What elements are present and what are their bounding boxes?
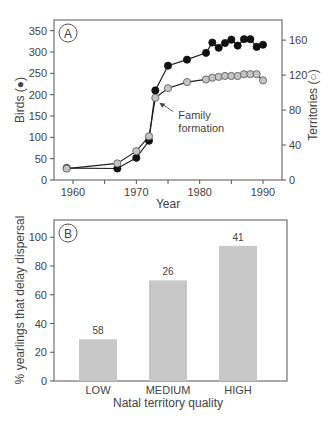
figure: 050100150200250300350 04080120160 196019… bbox=[0, 0, 334, 427]
panel-b-bar-chart: 020406080100 58LOW26MEDIUM41HIGH B Natal… bbox=[13, 216, 287, 410]
tick-label: 150 bbox=[29, 110, 47, 122]
tick-label: 40 bbox=[289, 139, 301, 151]
data-point bbox=[133, 148, 140, 155]
tick-label: 350 bbox=[29, 25, 47, 37]
tick-label: 1990 bbox=[251, 186, 275, 198]
data-point bbox=[183, 56, 190, 63]
data-point bbox=[228, 36, 235, 43]
y-axis-ticks: 020406080100 bbox=[29, 231, 54, 387]
tick-label: 0 bbox=[41, 375, 47, 387]
x-axis-ticks: 1960197019801990 bbox=[61, 180, 275, 198]
data-point bbox=[164, 62, 171, 69]
tick-label: 0 bbox=[41, 174, 47, 186]
category-label: HIGH bbox=[224, 384, 252, 396]
arrow-head-icon bbox=[159, 103, 165, 108]
bar-high bbox=[219, 246, 257, 381]
data-point bbox=[202, 49, 209, 56]
tick-label: 1960 bbox=[61, 186, 85, 198]
data-point bbox=[209, 39, 216, 46]
tick-label: 1970 bbox=[124, 186, 148, 198]
tick-label: 40 bbox=[35, 318, 47, 330]
data-point bbox=[259, 77, 266, 84]
data-point bbox=[164, 85, 171, 92]
data-point bbox=[253, 71, 260, 78]
bar-value-label: 41 bbox=[232, 232, 244, 243]
tick-label: 80 bbox=[35, 260, 47, 272]
data-point bbox=[152, 94, 159, 101]
data-point bbox=[234, 42, 241, 49]
tick-label: 200 bbox=[29, 89, 47, 101]
tick-label: 100 bbox=[29, 131, 47, 143]
tick-label: 120 bbox=[289, 69, 307, 81]
tick-label: 0 bbox=[289, 174, 295, 186]
tick-label: 1980 bbox=[187, 186, 211, 198]
bars: 58LOW26MEDIUM41HIGH bbox=[79, 232, 257, 396]
tick-label: 80 bbox=[289, 104, 301, 116]
tick-label: 20 bbox=[35, 346, 47, 358]
plot-frame bbox=[54, 20, 282, 180]
tick-label: 50 bbox=[35, 153, 47, 165]
tick-label: 100 bbox=[29, 231, 47, 243]
right-axis-label: Territories (○) bbox=[306, 69, 320, 140]
data-point bbox=[215, 44, 222, 51]
panel-a-line-chart: 050100150200250300350 04080120160 196019… bbox=[13, 20, 320, 211]
data-point bbox=[114, 160, 121, 167]
family-formation-annotation: Familyformation bbox=[159, 103, 224, 134]
data-point bbox=[259, 41, 266, 48]
category-label: LOW bbox=[85, 384, 111, 396]
left-axis-label: Birds (●) bbox=[13, 77, 27, 123]
bar-value-label: 58 bbox=[92, 325, 104, 336]
y-axis-label: % yearlings that delay dispersal bbox=[13, 216, 27, 385]
annotation-text: Family bbox=[178, 109, 211, 121]
bar-medium bbox=[149, 280, 187, 381]
tick-label: 300 bbox=[29, 46, 47, 58]
category-label: MEDIUM bbox=[146, 384, 191, 396]
bar-value-label: 26 bbox=[162, 266, 174, 277]
data-point bbox=[63, 165, 70, 172]
data-point bbox=[133, 154, 140, 161]
annotation-text: formation bbox=[178, 122, 224, 134]
data-point bbox=[247, 36, 254, 43]
right-axis-ticks: 04080120160 bbox=[282, 34, 307, 186]
panel-label: B bbox=[64, 227, 72, 241]
data-point bbox=[145, 133, 152, 140]
x-axis-label: Year bbox=[156, 197, 180, 211]
left-axis-ticks: 050100150200250300350 bbox=[29, 25, 54, 186]
data-point bbox=[152, 87, 159, 94]
data-point bbox=[183, 78, 190, 85]
tick-label: 160 bbox=[289, 34, 307, 46]
tick-label: 250 bbox=[29, 67, 47, 79]
x-axis-label: Natal territory quality bbox=[113, 396, 223, 410]
tick-label: 60 bbox=[35, 289, 47, 301]
bar-low bbox=[79, 339, 117, 381]
panel-label: A bbox=[64, 27, 72, 41]
